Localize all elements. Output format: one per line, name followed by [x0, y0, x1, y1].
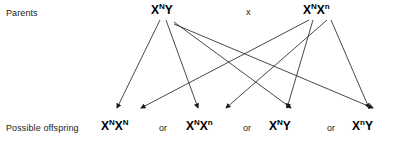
offspring-genotype-0: XNXN	[101, 119, 129, 133]
offspring-genotype-3: XnY	[352, 119, 373, 133]
male-XN-cross-to-offspring-2	[174, 22, 291, 108]
inheritance-arrows	[117, 20, 373, 108]
offspring-1-allele2-base: X	[200, 119, 208, 133]
female-Xn-to-offspring-2	[226, 20, 327, 108]
male-XN-to-offspring-0	[117, 20, 160, 108]
parent-female-allele2-base: X	[317, 3, 325, 17]
offspring-2-allele1-base: X	[269, 119, 277, 133]
parent-female-allele1-base: X	[303, 3, 311, 17]
male-Y-to-offspring-1	[166, 20, 198, 108]
inheritance-cross-diagram: Parents Possible offspring XNY x XNXn XN…	[0, 0, 393, 141]
female-Xn-to-offspring-3	[331, 20, 369, 108]
offspring-row-label: Possible offspring	[6, 123, 79, 133]
parent-male-allele2-base: Y	[165, 3, 173, 17]
offspring-3-allele2-base: Y	[365, 119, 373, 133]
offspring-genotype-2: XNY	[269, 119, 291, 133]
offspring-1-allele1-base: X	[186, 119, 194, 133]
offspring-separator-1: or	[243, 123, 251, 133]
offspring-separator-0: or	[159, 123, 167, 133]
parents-row-label: Parents	[6, 8, 38, 18]
parent-genotype-male: XNY	[151, 3, 173, 17]
female-XN-to-offspring-2	[287, 20, 313, 108]
female-XN-to-offspring-1	[141, 20, 309, 108]
parent-male-allele1-base: X	[151, 3, 159, 17]
offspring-0-allele2-superscript: N	[123, 118, 129, 127]
cross-symbol: x	[246, 7, 251, 17]
offspring-2-allele2-base: Y	[283, 119, 291, 133]
offspring-0-allele2-base: X	[115, 119, 123, 133]
offspring-0-allele1-base: X	[101, 119, 109, 133]
male-Y-cross-to-offspring-3	[174, 24, 373, 108]
offspring-separator-2: or	[327, 123, 335, 133]
offspring-genotype-1: XNXn	[186, 119, 213, 133]
parent-genotype-female: XNXn	[303, 3, 330, 17]
parent-female-allele2-superscript: n	[325, 2, 330, 11]
offspring-1-allele2-superscript: n	[208, 118, 213, 127]
offspring-3-allele1-base: X	[352, 119, 360, 133]
